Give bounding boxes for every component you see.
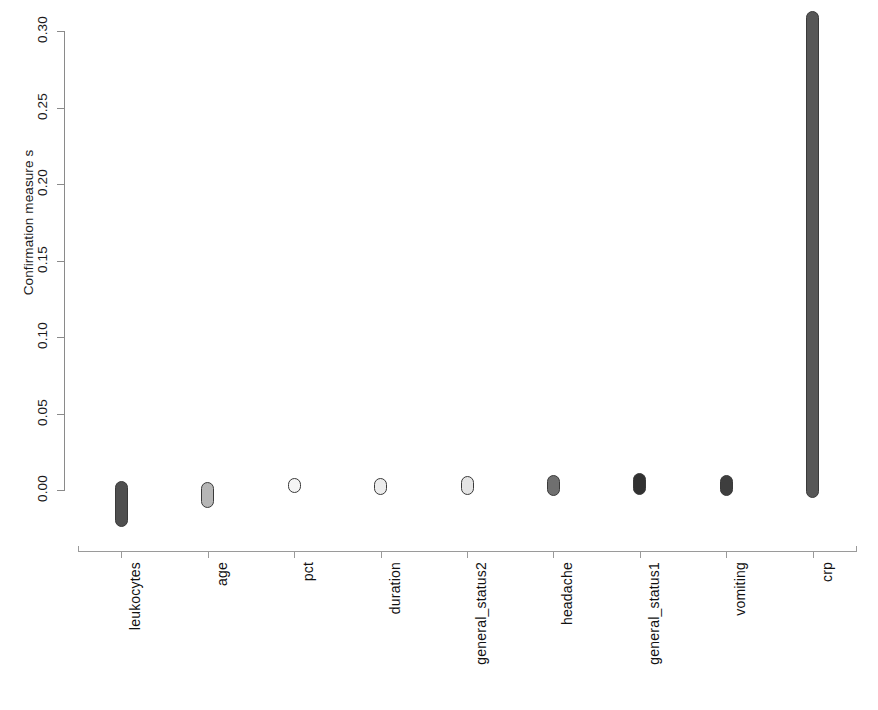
y-axis-title: Confirmation measure s [21, 133, 36, 313]
y-axis-tick [57, 261, 64, 262]
x-axis-tick [640, 551, 641, 558]
bar-general_status2 [461, 476, 474, 494]
x-axis-cap [856, 546, 857, 552]
y-axis-line [64, 31, 65, 491]
bar-leukocytes [115, 481, 128, 527]
y-axis-tick [57, 414, 64, 415]
x-axis-cap [78, 546, 79, 552]
x-axis-tick [381, 551, 382, 558]
x-axis-tick-label: crp [819, 562, 835, 582]
x-axis-tick-label: headache [559, 562, 575, 625]
x-axis-tick [813, 551, 814, 558]
y-axis-tick [57, 108, 64, 109]
chart-canvas: Confirmation measure s 0.000.050.100.150… [0, 0, 878, 710]
y-axis-tick [57, 337, 64, 338]
y-axis-cap [59, 31, 65, 32]
y-axis-tick-label: 0.10 [0, 328, 56, 343]
x-axis-tick [208, 551, 209, 558]
bar-general_status1 [633, 473, 646, 494]
x-axis-tick [121, 551, 122, 558]
x-axis-tick [726, 551, 727, 558]
plot-area: Confirmation measure s 0.000.050.100.150… [0, 0, 878, 710]
y-axis-tick [57, 184, 64, 185]
bar-pct [288, 478, 301, 493]
y-axis-tick-label: 0.15 [0, 252, 56, 267]
x-axis-tick-label: duration [387, 562, 403, 614]
bar-duration [374, 478, 387, 495]
y-axis-tick-label: 0.00 [0, 481, 56, 496]
y-axis-tick-label: 0.25 [0, 99, 56, 114]
x-axis-tick-label: general_status1 [646, 562, 662, 665]
x-axis-tick [467, 551, 468, 558]
bar-age [201, 482, 214, 508]
y-axis-tick-label: 0.30 [0, 22, 56, 37]
x-axis-tick-label: general_status2 [473, 562, 489, 665]
x-axis-tick-label: leukocytes [127, 562, 143, 630]
x-axis-tick [294, 551, 295, 558]
bar-vomiting [720, 475, 733, 496]
y-axis-cap [59, 490, 65, 491]
y-axis-tick-label: 0.05 [0, 405, 56, 420]
x-axis-tick [553, 551, 554, 558]
x-axis-tick-label: age [214, 562, 230, 586]
bar-crp [806, 11, 819, 498]
bar-headache [547, 475, 560, 496]
y-axis-tick-label: 0.20 [0, 175, 56, 190]
x-axis-tick-label: vomiting [732, 562, 748, 616]
x-axis-tick-label: pct [300, 562, 316, 581]
